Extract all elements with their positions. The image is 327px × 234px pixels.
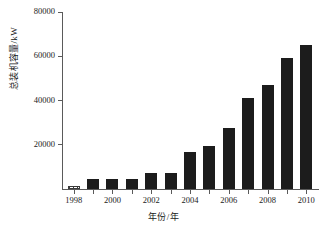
- bar-2010: [300, 45, 312, 189]
- x-axis-tick-label: 1998: [65, 195, 82, 205]
- bar-2008: [262, 85, 274, 189]
- bar-1998: [68, 186, 80, 189]
- x-axis-tick-mark: [151, 190, 152, 194]
- x-axis-tick-label: 2010: [298, 195, 315, 205]
- bar-2009: [281, 58, 293, 189]
- bar-2002: [145, 173, 157, 189]
- x-axis-tick-label: 2002: [143, 195, 160, 205]
- y-axis-tick-label: 80000: [34, 6, 55, 16]
- y-axis-tick-label: 60000: [34, 50, 55, 60]
- bar-2003: [165, 173, 177, 189]
- x-axis-tick-mark: [112, 190, 113, 194]
- x-axis-tick-label: 2008: [259, 195, 276, 205]
- x-axis-tick-label: 2000: [104, 195, 121, 205]
- x-axis-tick-mark: [74, 190, 75, 194]
- bar-2000: [106, 179, 118, 189]
- y-axis-tick-label: 20000: [34, 139, 55, 149]
- x-axis-tick-mark: [248, 190, 249, 194]
- bar-2006: [223, 128, 235, 189]
- x-axis-tick-mark: [229, 190, 230, 194]
- bar-2001: [126, 179, 138, 189]
- x-axis-tick-mark: [209, 190, 210, 194]
- x-axis-tick-mark: [132, 190, 133, 194]
- x-axis-title: 年份/年: [0, 210, 327, 223]
- bar-chart-figure: 总装机容量/kW 20000400006000080000 1998200020…: [0, 0, 327, 234]
- y-axis-tick-label: 40000: [34, 95, 55, 105]
- bar-2005: [203, 146, 215, 189]
- x-axis-tick-label: 2006: [220, 195, 237, 205]
- y-axis-title: 总装机容量/kW: [7, 0, 20, 124]
- x-axis-tick-mark: [268, 190, 269, 194]
- bar-1999: [87, 179, 99, 189]
- plot-area: [62, 12, 318, 189]
- x-axis-tick-mark: [93, 190, 94, 194]
- bar-2004: [184, 152, 196, 189]
- x-axis-tick-mark: [287, 190, 288, 194]
- x-axis-tick-label: 2004: [182, 195, 199, 205]
- x-axis-tick-mark: [190, 190, 191, 194]
- bar-2007: [242, 98, 254, 189]
- x-axis-tick-mark: [171, 190, 172, 194]
- x-axis-tick-mark: [306, 190, 307, 194]
